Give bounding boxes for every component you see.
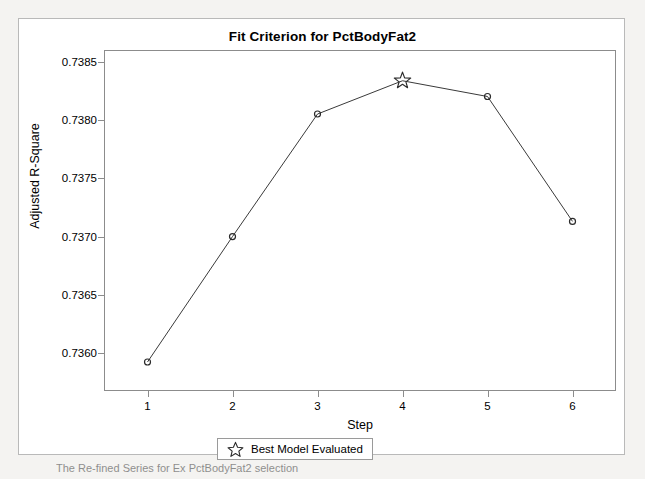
x-axis-tick-label: 6 [558,400,588,412]
page-caption-fragment: The Re-fined Series for Ex PctBodyFat2 s… [56,462,476,477]
star-icon [227,441,244,458]
y-axis-tick-label: 0.7380 [41,114,97,126]
y-axis-label: Adjusted R-Square [28,86,42,266]
x-axis-tick-label: 1 [133,400,163,412]
legend: Best Model Evaluated [217,438,373,460]
y-axis-tick-label: 0.7365 [41,289,97,301]
x-axis-tick-marks [104,391,616,399]
y-axis-tick-label: 0.7375 [41,172,97,184]
x-axis-tick-mark [573,391,574,397]
x-axis-tick-label: 5 [473,400,503,412]
y-axis-tick-label: 0.7360 [41,347,97,359]
x-axis-tick-label: 2 [218,400,248,412]
y-axis-tick-label: 0.7385 [41,56,97,68]
x-axis-tick-mark [318,391,319,397]
y-axis-tick-label: 0.7370 [41,231,97,243]
line-series-svg [105,51,615,390]
figure-panel: Fit Criterion for PctBodyFat2 0.73600.73… [18,18,625,455]
x-axis-tick-labels: 123456 [104,400,616,416]
x-axis-tick-mark [233,391,234,397]
y-axis-tick-labels: 0.73600.73650.73700.73750.73800.7385 [35,50,97,391]
x-axis-tick-mark [148,391,149,397]
x-axis-label: Step [104,418,616,432]
chart-title: Fit Criterion for PctBodyFat2 [19,29,626,44]
x-axis-tick-mark [403,391,404,397]
series-line [148,81,573,362]
plot-area [104,50,616,391]
x-axis-tick-label: 3 [303,400,333,412]
x-axis-tick-mark [488,391,489,397]
best-model-star-marker [394,72,410,88]
x-axis-tick-label: 4 [388,400,418,412]
legend-label: Best Model Evaluated [251,443,363,455]
